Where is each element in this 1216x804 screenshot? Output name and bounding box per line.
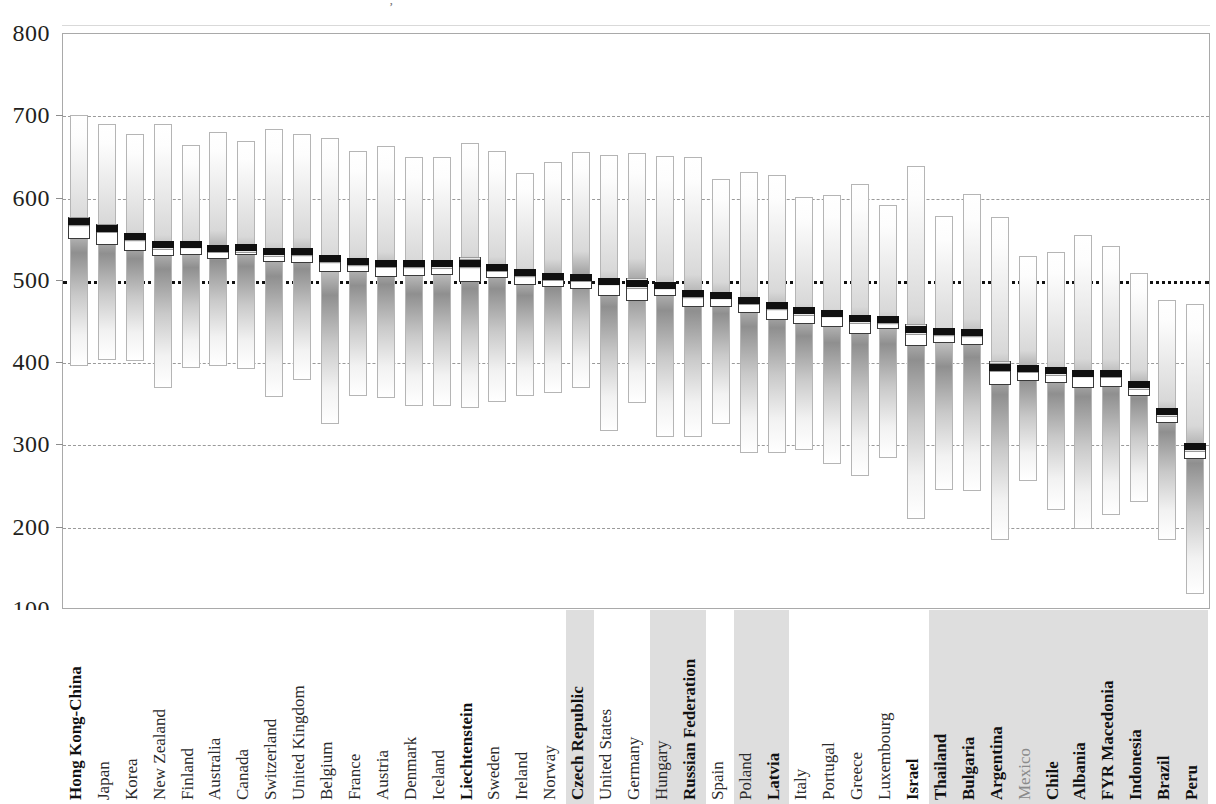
mean-marker	[235, 244, 257, 251]
x-axis-label: New Zealand	[151, 709, 168, 800]
mean-marker	[877, 316, 899, 323]
x-axis-label: Albania	[1071, 742, 1088, 800]
mean-marker	[1156, 408, 1178, 415]
mean-marker	[514, 269, 536, 276]
mean-marker	[431, 260, 453, 267]
x-axis-label: Liechtenstein	[458, 703, 475, 800]
range-bar	[823, 195, 841, 464]
x-axis-label: Ireland	[513, 752, 530, 800]
y-axis-tick-mark	[56, 527, 63, 528]
mean-marker	[570, 274, 592, 281]
y-axis-tick-label: 300	[13, 432, 51, 456]
range-bar	[265, 129, 283, 396]
y-axis-tick-label: 600	[13, 186, 51, 210]
x-axis-label: Norway	[541, 745, 558, 800]
x-axis-label: Finland	[179, 748, 196, 800]
x-axis-label: Peru	[1183, 765, 1200, 800]
y-axis-tick-mark	[56, 115, 63, 116]
y-axis: 100200300400500600700800	[0, 33, 56, 609]
x-axis-label: Austria	[374, 750, 391, 800]
y-axis-tick-label: 500	[13, 268, 51, 292]
x-axis-label: Sweden	[485, 746, 502, 800]
mean-marker	[124, 233, 146, 240]
mean-marker	[152, 241, 174, 248]
x-axis-label: Portugal	[820, 742, 837, 800]
mean-marker	[710, 292, 732, 299]
x-axis-label: Bulgaria	[960, 737, 977, 800]
x-axis-label: Greece	[848, 752, 865, 800]
y-axis-tick-mark	[56, 444, 63, 445]
mean-marker	[542, 273, 564, 280]
x-axis-label: Russian Federation	[681, 659, 698, 800]
range-bar	[349, 151, 367, 396]
mean-marker	[961, 329, 983, 336]
mean-marker	[180, 241, 202, 248]
mean-marker	[766, 302, 788, 309]
x-axis-label: Canada	[234, 749, 251, 800]
y-axis-tick-label: 800	[13, 21, 51, 45]
plot-area	[62, 33, 1210, 609]
range-bar	[935, 216, 953, 490]
range-bar	[433, 157, 451, 406]
x-axis-label: Belgium	[318, 741, 335, 800]
mean-marker	[1045, 367, 1067, 374]
x-axis-label: United Kingdom	[290, 685, 307, 800]
x-axis-label: Thailand	[932, 734, 949, 800]
x-axis-label: Argentina	[988, 726, 1005, 800]
x-axis-label: Latvia	[765, 753, 782, 800]
mean-marker	[1184, 443, 1206, 450]
mean-marker	[793, 307, 815, 314]
x-axis-label: Japan	[95, 761, 112, 800]
x-axis-label: Hong Kong-China	[67, 666, 84, 800]
x-axis-label: Luxembourg	[876, 712, 893, 800]
mean-marker	[1100, 370, 1122, 377]
range-bar	[656, 156, 674, 437]
mean-marker	[682, 290, 704, 297]
mean-marker	[403, 260, 425, 267]
x-axis-label: Indonesia	[1127, 729, 1144, 800]
y-axis-tick-mark	[56, 280, 63, 281]
x-axis-label: Czech Republic	[569, 686, 586, 800]
mean-marker	[738, 297, 760, 304]
x-axis-label: Mexico	[1016, 748, 1033, 800]
x-axis-label: Korea	[123, 758, 140, 800]
y-axis-tick-label: 200	[13, 515, 51, 539]
y-axis-tick-label: 700	[13, 103, 51, 127]
mean-marker	[96, 225, 118, 232]
x-axis-label: France	[346, 754, 363, 800]
mean-marker	[849, 315, 871, 322]
range-bar	[182, 145, 200, 368]
x-axis-label: Denmark	[402, 737, 419, 800]
x-axis-label: Hungary	[653, 741, 670, 800]
x-axis-label: Spain	[709, 761, 726, 800]
mean-marker	[68, 218, 90, 225]
y-axis-tick-label: 400	[13, 350, 51, 374]
mean-marker	[1072, 370, 1094, 377]
mean-marker	[654, 282, 676, 289]
range-bar	[70, 115, 88, 366]
gridline-300	[63, 445, 1209, 446]
mean-marker	[1128, 381, 1150, 388]
mean-marker	[626, 280, 648, 287]
mean-marker	[598, 278, 620, 285]
x-axis-label: Poland	[737, 753, 754, 800]
mean-marker	[319, 255, 341, 262]
x-axis-label: Switzerland	[262, 719, 279, 800]
y-axis-tick-mark	[56, 362, 63, 363]
x-axis-label: Israel	[904, 758, 921, 800]
x-axis-label: Chile	[1044, 761, 1061, 800]
mean-marker	[1017, 365, 1039, 372]
mean-marker	[459, 260, 481, 267]
x-axis-label: Italy	[792, 769, 809, 800]
mean-marker	[263, 248, 285, 255]
range-bar	[572, 152, 590, 388]
mean-marker	[207, 245, 229, 252]
x-axis-label: United States	[597, 709, 614, 800]
x-axis-labels: Hong Kong-ChinaJapanKoreaNew ZealandFinl…	[0, 610, 1216, 804]
chart-figure: ’ 100200300400500600700800 Hong Kong-Chi…	[0, 0, 1216, 804]
mean-marker	[821, 310, 843, 317]
mean-marker	[291, 248, 313, 255]
mean-marker	[347, 258, 369, 265]
x-axis-label: Iceland	[430, 750, 447, 800]
range-bar	[321, 138, 339, 424]
